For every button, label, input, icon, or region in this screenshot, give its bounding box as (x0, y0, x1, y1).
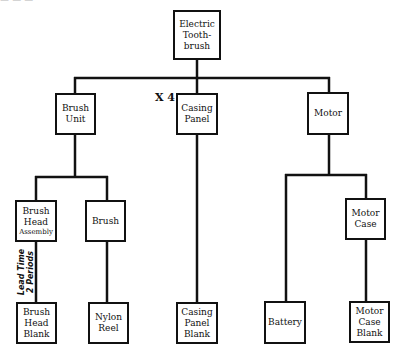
node-label: Head (19, 217, 53, 228)
node-label: Blank (23, 329, 50, 340)
node-label: Casing (181, 103, 212, 114)
node-motor: Motor (307, 92, 349, 135)
node-label: Motor (352, 208, 380, 219)
node-label: Battery (268, 317, 302, 328)
node-casing-panel: Casing Panel (176, 93, 218, 135)
node-label: Blank (181, 329, 212, 340)
node-nylon-reel: Nylon Reel (88, 302, 129, 344)
node-label: Motor (314, 108, 342, 119)
node-label: Electric (179, 19, 215, 30)
node-label: Nylon (95, 312, 122, 323)
node-electric-toothbrush: Electric Tooth- brush (173, 10, 221, 60)
node-label: Brush (62, 103, 89, 114)
quantity-label-casing-panel: X 4 (155, 91, 175, 104)
node-label: Panel (181, 318, 212, 329)
node-battery: Battery (264, 301, 306, 344)
node-label: Case (356, 317, 384, 328)
node-label: Casing (181, 307, 212, 318)
lead-time-annotation: Lead Time 2 Periods (17, 248, 35, 296)
node-label-small: Assembly (19, 228, 53, 237)
node-brush-head-blank: Brush Head Blank (16, 302, 57, 344)
node-brush-head-assembly: Brush Head Assembly (15, 200, 57, 242)
lead-time-line-1: Lead Time (17, 248, 26, 296)
node-label: Tooth- (179, 30, 215, 41)
node-label: Blank (356, 328, 384, 339)
node-label: Case (352, 219, 380, 230)
node-label: Panel (181, 114, 212, 125)
node-label: Brush (92, 216, 119, 227)
node-label: Reel (95, 323, 122, 334)
node-label: Brush (23, 307, 50, 318)
lead-time-line-2: 2 Periods (26, 248, 35, 296)
node-label: brush (179, 41, 215, 52)
node-brush: Brush (85, 200, 126, 242)
node-brush-unit: Brush Unit (55, 93, 96, 135)
node-label: Head (23, 318, 50, 329)
node-label: Brush (19, 206, 53, 217)
node-casing-panel-blank: Casing Panel Blank (176, 302, 218, 344)
node-motor-case: Motor Case (345, 198, 386, 240)
node-label: Motor (356, 306, 384, 317)
node-motor-case-blank: Motor Case Blank (349, 301, 390, 343)
node-label: Unit (62, 114, 89, 125)
